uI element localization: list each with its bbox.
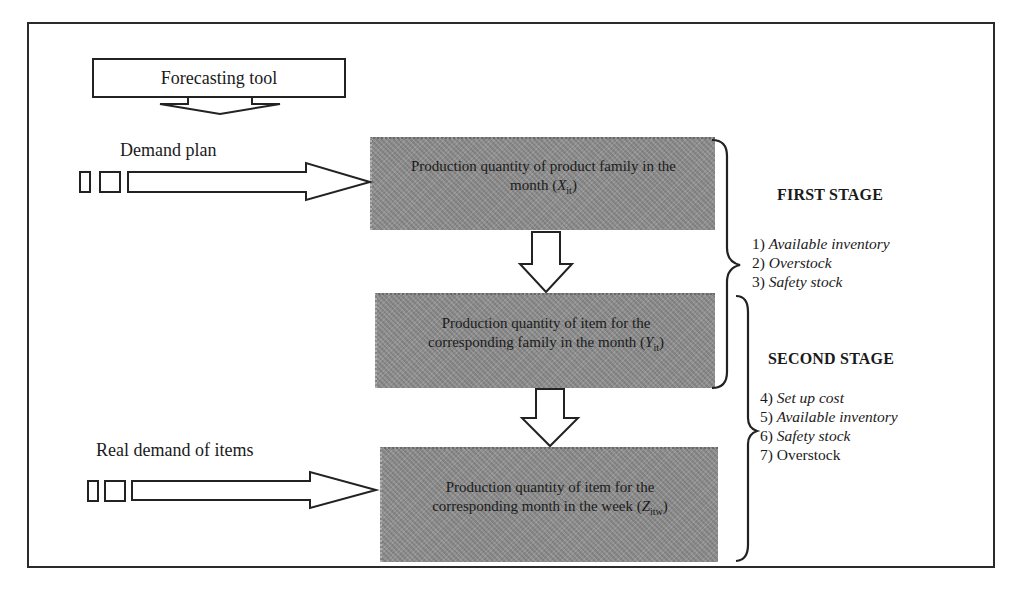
real-demand-tail-small-icon xyxy=(88,481,98,501)
criterion-6-text: Safety stock xyxy=(777,427,851,444)
criterion-1-num: 1) xyxy=(752,235,765,252)
criterion-2: 2) Overstock xyxy=(752,253,832,272)
criterion-3-text: Safety stock xyxy=(769,273,843,290)
criterion-1: 1) Available inventory xyxy=(752,234,890,253)
demand-plan-tail-small-icon xyxy=(80,172,90,192)
criterion-7-num: 7) xyxy=(760,446,773,463)
criterion-5-text: Available inventory xyxy=(777,408,898,425)
criterion-5: 5) Available inventory xyxy=(760,407,898,426)
criterion-4-num: 4) xyxy=(760,389,773,406)
criterion-2-text: Overstock xyxy=(769,254,832,271)
real-demand-arrow-icon xyxy=(132,472,376,508)
connectors-layer xyxy=(0,0,1018,591)
criterion-3-num: 3) xyxy=(752,273,765,290)
demand-plan-arrow-icon xyxy=(128,163,370,200)
criterion-6-num: 6) xyxy=(760,427,773,444)
criterion-5-num: 5) xyxy=(760,408,773,425)
criterion-2-num: 2) xyxy=(752,254,765,271)
down-arrow-1-icon xyxy=(520,232,572,292)
forecast-down-arrow-icon xyxy=(160,98,280,114)
criterion-6: 6) Safety stock xyxy=(760,426,850,445)
second-stage-brace-icon xyxy=(736,296,757,561)
criterion-1-text: Available inventory xyxy=(769,235,890,252)
second-stage-title: SECOND STAGE xyxy=(768,350,894,368)
down-arrow-2-icon xyxy=(522,389,578,446)
criterion-7-text: Overstock xyxy=(777,446,841,463)
first-stage-brace-icon xyxy=(712,140,740,388)
criterion-4-text: Set up cost xyxy=(777,389,844,406)
first-stage-title: FIRST STAGE xyxy=(777,186,883,204)
real-demand-tail-large-icon xyxy=(105,481,125,501)
criterion-3: 3) Safety stock xyxy=(752,272,842,291)
criterion-4: 4) Set up cost xyxy=(760,388,844,407)
criterion-7: 7) Overstock xyxy=(760,445,841,464)
demand-plan-tail-large-icon xyxy=(100,172,120,192)
